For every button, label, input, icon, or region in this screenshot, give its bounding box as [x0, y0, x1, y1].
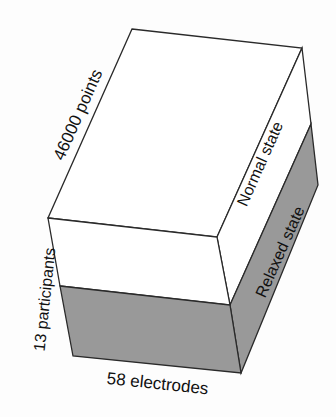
data-cube-diagram: 46000 points Normal state Relaxed state …	[0, 0, 336, 417]
cube-svg: 46000 points Normal state Relaxed state …	[0, 0, 336, 417]
width-axis-label: 58 electrodes	[106, 369, 210, 399]
height-axis-label: 13 participants	[31, 247, 59, 352]
